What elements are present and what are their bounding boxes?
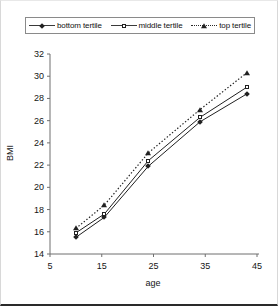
data-point-triangle-icon [197, 107, 203, 112]
x-axis-tick-label: 35 [200, 261, 210, 271]
data-point-square-icon [198, 115, 202, 119]
y-axis-tick-label: 20 [34, 182, 44, 192]
y-axis-tick-label: 28 [34, 93, 44, 103]
x-axis-tick-label: 45 [252, 261, 262, 271]
x-axis-tick-label: 25 [148, 261, 158, 271]
data-point-triangle-icon [145, 150, 151, 155]
data-point-square-icon [102, 212, 106, 216]
chart-figure: bottom tertile middle tertile top tertil… [0, 0, 278, 306]
y-axis-tick-label: 22 [34, 160, 44, 170]
y-axis-tick-label: 14 [34, 249, 44, 259]
data-point-triangle-icon [101, 202, 107, 207]
x-axis-tick-label: 15 [97, 261, 107, 271]
x-axis-tick-label: 5 [47, 261, 52, 271]
y-axis-tick-label: 24 [34, 138, 44, 148]
y-axis-tick-label: 30 [34, 71, 44, 81]
data-point-square-icon [146, 159, 150, 163]
y-axis-tick-label: 16 [34, 227, 44, 237]
data-point-square-icon [245, 85, 249, 89]
y-axis-tick-label: 18 [34, 205, 44, 215]
y-axis-tick-label: 32 [34, 49, 44, 59]
data-point-triangle-icon [73, 226, 79, 231]
y-axis-title: BMI [5, 145, 15, 161]
data-point-square-icon [74, 231, 78, 235]
data-point-triangle-icon [244, 70, 250, 75]
plot-area: 14161820222426283032515253545 [1, 1, 278, 306]
x-axis-title: age [145, 278, 160, 288]
plot-canvas [1, 1, 278, 306]
y-axis-tick-label: 26 [34, 116, 44, 126]
